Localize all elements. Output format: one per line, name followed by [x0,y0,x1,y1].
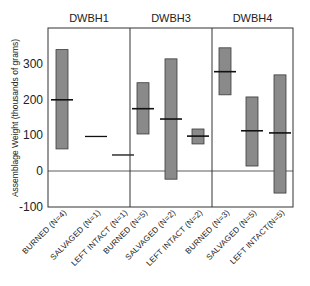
range-bar [274,75,286,193]
y-axis: -1000100200300 [19,57,43,213]
category-label: SALVAGED (N=5) [205,208,259,262]
y-tick-label: -100 [19,200,43,214]
y-axis-label: Assemblage Weight (thousands of grams) [10,39,20,197]
category-label: LEFT INTACT(N=5) [228,208,286,266]
range-chart: -1000100200300 DWBH1BURNED (N=4)SALVAGED… [0,0,310,286]
y-tick-label: 200 [23,93,43,107]
y-tick-label: 0 [36,164,43,178]
panel-dwbh3: DWBH3BURNED (N=5)SALVAGED (N=2)LEFT INTA… [102,12,209,268]
panel-title: DWBH1 [69,12,109,24]
category-label: SALVAGED (N=2) [124,208,178,262]
y-tick-label: 100 [23,128,43,142]
panel-title: DWBH4 [233,12,273,24]
y-tick-label: 300 [23,57,43,71]
panel-title: DWBH3 [151,12,191,24]
panels: DWBH1BURNED (N=4)SALVAGED (N=1)LEFT INTA… [21,12,291,268]
